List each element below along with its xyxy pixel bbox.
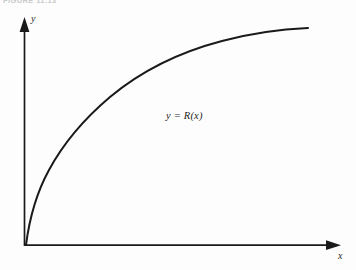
y-axis-label: y: [31, 13, 35, 24]
figure-container: FIGURE 11.13 y x y = R(x): [0, 0, 356, 270]
plot-area: [0, 0, 356, 270]
x-axis-arrowhead: [326, 240, 341, 250]
revenue-curve: [26, 28, 308, 245]
curve-equation-label: y = R(x): [166, 110, 203, 121]
x-axis-label: x: [338, 250, 342, 261]
y-axis-arrowhead: [20, 17, 30, 32]
